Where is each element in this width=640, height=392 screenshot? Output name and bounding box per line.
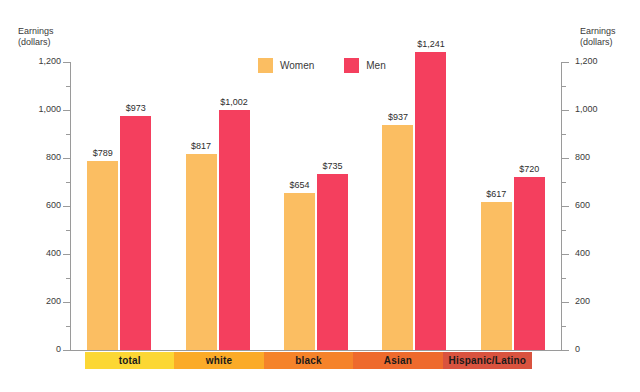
bar-hispanic-latino-women[interactable] xyxy=(481,202,512,350)
y-tick-label-right-400: 400 xyxy=(575,248,590,258)
y-tick-label-left-400: 400 xyxy=(46,248,61,258)
bar-asian-men[interactable] xyxy=(415,52,446,350)
bar-value-label-white-men: $1,002 xyxy=(210,97,259,107)
y-minor-tick-right-300 xyxy=(562,278,566,279)
y-tick-right-600 xyxy=(562,206,569,207)
y-tick-left-1000 xyxy=(63,110,70,111)
plot-area: 002002004004006006008008001,0001,0001,20… xyxy=(70,62,562,350)
y-axis-spine-left xyxy=(70,62,71,350)
bar-value-label-black-men: $735 xyxy=(308,161,357,171)
y-tick-left-200 xyxy=(63,302,70,303)
y-tick-label-left-1200: 1,200 xyxy=(38,56,61,66)
y-minor-tick-right-1100 xyxy=(562,86,566,87)
y-axis-title-right: Earnings (dollars) xyxy=(580,26,616,48)
y-tick-right-200 xyxy=(562,302,569,303)
y-tick-label-left-1000: 1,000 xyxy=(38,104,61,114)
bar-hispanic-latino-men[interactable] xyxy=(514,177,545,350)
bar-value-label-total-men: $973 xyxy=(111,103,160,113)
y-tick-label-right-200: 200 xyxy=(575,296,590,306)
y-minor-tick-right-900 xyxy=(562,134,566,135)
y-tick-right-0 xyxy=(562,350,569,351)
category-label-black[interactable]: black xyxy=(264,352,353,369)
bar-value-label-hispanic-latino-men: $720 xyxy=(505,164,554,174)
bar-total-women[interactable] xyxy=(87,161,118,350)
y-tick-right-1000 xyxy=(562,110,569,111)
y-minor-tick-left-300 xyxy=(66,278,70,279)
x-axis-baseline xyxy=(70,350,562,351)
y-tick-left-1200 xyxy=(63,62,70,63)
bar-value-label-asian-men: $1,241 xyxy=(406,39,455,49)
y-tick-right-400 xyxy=(562,254,569,255)
bar-black-men[interactable] xyxy=(317,174,348,350)
category-label-asian[interactable]: Asian xyxy=(353,352,442,369)
y-tick-left-400 xyxy=(63,254,70,255)
y-minor-tick-right-500 xyxy=(562,230,566,231)
y-tick-label-right-0: 0 xyxy=(575,344,580,354)
category-label-hispanic-latino[interactable]: Hispanic/Latino xyxy=(443,352,532,369)
y-tick-label-left-600: 600 xyxy=(46,200,61,210)
y-tick-label-right-1200: 1,200 xyxy=(575,56,598,66)
category-label-white[interactable]: white xyxy=(174,352,263,369)
y-tick-label-left-200: 200 xyxy=(46,296,61,306)
y-minor-tick-right-100 xyxy=(562,326,566,327)
y-tick-label-right-1000: 1,000 xyxy=(575,104,598,114)
y-minor-tick-left-500 xyxy=(66,230,70,231)
y-tick-label-left-0: 0 xyxy=(56,344,61,354)
y-minor-tick-left-1100 xyxy=(66,86,70,87)
y-minor-tick-right-700 xyxy=(562,182,566,183)
y-minor-tick-left-900 xyxy=(66,134,70,135)
y-tick-label-right-800: 800 xyxy=(575,152,590,162)
category-band: totalwhiteblackAsianHispanic/Latino xyxy=(85,352,532,369)
y-tick-right-1200 xyxy=(562,62,569,63)
y-axis-title-left: Earnings (dollars) xyxy=(18,26,54,48)
y-tick-label-right-600: 600 xyxy=(575,200,590,210)
bar-black-women[interactable] xyxy=(284,193,315,350)
bar-asian-women[interactable] xyxy=(382,125,413,350)
y-tick-left-600 xyxy=(63,206,70,207)
y-minor-tick-left-700 xyxy=(66,182,70,183)
y-tick-left-800 xyxy=(63,158,70,159)
bar-total-men[interactable] xyxy=(120,116,151,350)
bar-white-men[interactable] xyxy=(219,110,250,350)
y-tick-right-800 xyxy=(562,158,569,159)
bar-white-women[interactable] xyxy=(186,154,217,350)
category-label-total[interactable]: total xyxy=(85,352,174,369)
y-minor-tick-left-100 xyxy=(66,326,70,327)
y-tick-label-left-800: 800 xyxy=(46,152,61,162)
y-tick-left-0 xyxy=(63,350,70,351)
